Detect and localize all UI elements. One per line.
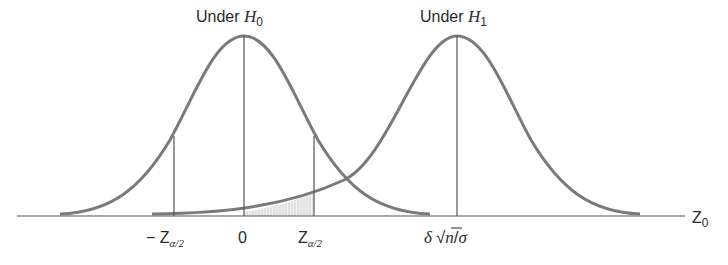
- shift-label: δ√n/σ: [424, 228, 467, 247]
- zero-label: 0: [238, 229, 247, 246]
- hypothesis-test-diagram: Under H0 Under H1 − Zα/2 0 Zα/2 δ√n/σ Z0: [0, 0, 728, 265]
- h1-label: Under H1: [420, 7, 487, 29]
- h0-label: Under H0: [196, 7, 263, 29]
- neg-critical-label: − Zα/2: [146, 229, 184, 249]
- h1-density-curve: [152, 36, 640, 214]
- axis-label: Z0: [692, 209, 709, 230]
- pos-critical-label: Zα/2: [298, 229, 323, 249]
- h0-density-curve: [60, 36, 430, 214]
